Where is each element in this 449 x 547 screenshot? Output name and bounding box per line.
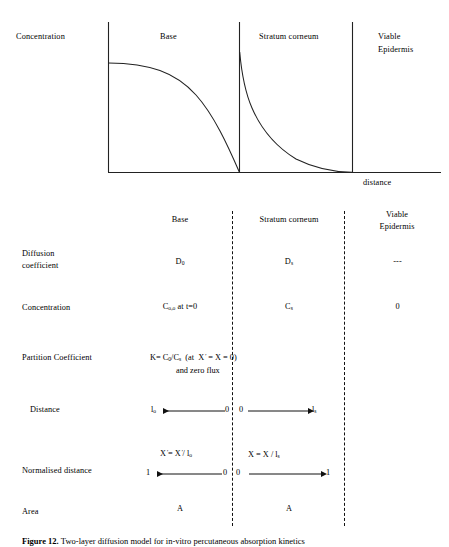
table-header-stratum-corneum: Stratum corneum [238,215,340,224]
figure-two-layer-diffusion-model: Concentration Base Stratum corneum Viabl… [0,0,449,547]
normalised-equation-right: X = X / ls [248,450,280,459]
cell-area-stratum: A [238,504,340,513]
cell-partition-formula-line1: K= C0/Cs (at X′ = X = 0) [150,352,237,362]
normalised-right-end-label: 1 [326,468,330,477]
parameters-table: Base Stratum corneum ViableEpidermis Dif… [0,206,449,531]
cell-diffusion-base: D0 [130,257,230,266]
table-header-row: Base Stratum corneum ViableEpidermis [0,212,449,238]
normalised-left-zero-label: 0 [223,468,227,477]
cell-concentration-base: Co,o at t=0 [130,302,230,311]
table-header-base: Base [130,215,230,224]
figure-caption: Figure 12. Two-layer diffusion model for… [22,535,442,547]
cell-diffusion-stratum: Ds [238,257,340,266]
cell-partition-formula-line2: and zero flux [176,366,220,375]
stratum-corneum-concentration-curve [240,52,352,172]
normalised-right-zero-label: 0 [236,468,240,477]
concentration-distance-chart: Concentration Base Stratum corneum Viabl… [0,0,449,200]
distance-left-end-label: lo [151,405,156,414]
cell-diffusion-viable: --- [350,257,445,266]
chart-region-label-viable-epidermis: ViableEpidermis [378,30,438,56]
chart-region-label-stratum-corneum: Stratum corneum [259,30,319,43]
figure-caption-number: Figure 12. [22,536,59,546]
chart-x-axis-label: distance [363,176,391,189]
base-concentration-curve [109,63,240,172]
cell-concentration-stratum: Cs [238,302,340,311]
distance-right-end-label: ls [312,405,317,414]
row-label-concentration: Concentration [22,302,70,314]
cell-area-base: A [130,504,230,513]
row-label-area: Area [22,506,39,518]
distance-left-zero-label: 0 [225,405,229,414]
distance-right-zero-label: 0 [239,405,243,414]
row-label-diffusion-coefficient: Diffusion coefficient [22,248,58,271]
normalised-equation-left: X′= X′/ lo [160,448,192,458]
cell-concentration-viable: 0 [350,302,445,311]
figure-caption-text: Two-layer diffusion model for in-vitro p… [61,536,305,546]
table-header-viable-epidermis: ViableEpidermis [357,209,437,232]
chart-region-label-base: Base [160,30,177,43]
chart-y-axis-label: Concentration [16,30,65,43]
row-label-partition-coefficient: Partition Coefficient [22,352,92,364]
normalised-left-end-label: 1 [146,468,150,477]
